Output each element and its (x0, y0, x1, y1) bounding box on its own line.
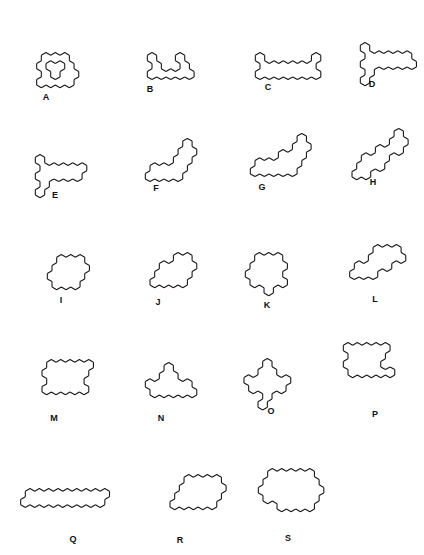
outline-a (37, 53, 79, 88)
label-m: M (50, 413, 58, 423)
label-r: R (177, 535, 184, 545)
perimeter-path (145, 138, 196, 181)
label-i: I (60, 295, 63, 305)
perimeter-path (245, 253, 287, 296)
perimeter-path (145, 363, 196, 398)
label-h: H (370, 177, 377, 187)
outline-b (147, 53, 194, 80)
label-s: S (285, 533, 291, 543)
benzenoid-outlines-figure (0, 0, 424, 555)
outline-o (244, 359, 291, 410)
label-a: A (43, 92, 50, 102)
label-g: G (258, 182, 265, 192)
outline-c (255, 53, 320, 80)
outline-h (352, 128, 408, 179)
perimeter-path (37, 53, 79, 88)
perimeter-path (350, 245, 406, 280)
label-k: K (264, 300, 271, 310)
perimeter-path (150, 253, 197, 288)
outline-r (170, 475, 226, 510)
label-p: P (372, 409, 378, 419)
perimeter-path (258, 469, 323, 512)
outline-l (350, 245, 406, 280)
perimeter-path (255, 53, 320, 80)
perimeter-path (250, 133, 311, 176)
perimeter-path (352, 128, 408, 179)
perimeter-path (35, 155, 86, 198)
label-l: L (372, 294, 378, 304)
label-n: N (158, 413, 165, 423)
perimeter-path (147, 53, 194, 80)
label-d: D (369, 79, 376, 89)
label-j: J (155, 297, 160, 307)
perimeter-path (244, 359, 291, 410)
perimeter-path (170, 475, 226, 510)
label-e: E (52, 190, 58, 200)
perimeter-path (42, 360, 93, 395)
perimeter-path (47, 255, 89, 290)
outline-e (35, 155, 86, 198)
outline-i (47, 255, 89, 290)
outline-g (250, 133, 311, 176)
outline-k (245, 253, 287, 296)
outline-j (150, 253, 197, 288)
label-o: O (267, 406, 274, 416)
outline-m (42, 360, 93, 395)
label-b: B (147, 84, 154, 94)
label-c: C (265, 82, 272, 92)
outline-s (258, 469, 323, 512)
outline-f (145, 138, 196, 181)
label-q: Q (69, 534, 76, 544)
outline-q (21, 489, 110, 508)
perimeter-path (21, 489, 110, 508)
outline-p (343, 343, 394, 378)
perimeter-path (343, 343, 394, 378)
label-f: F (153, 183, 159, 193)
outline-n (145, 363, 196, 398)
